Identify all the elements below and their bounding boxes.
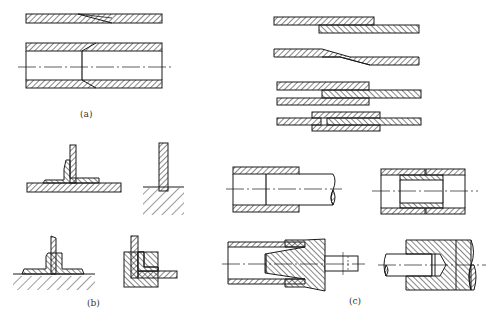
tube-taper-plug-joint	[222, 239, 365, 291]
scarf-joint-tube	[18, 43, 174, 88]
t-joint-double-doubler	[13, 236, 95, 290]
double-lap-joint	[277, 82, 421, 105]
scarf-joint-plate	[26, 14, 162, 23]
label-c: (c)	[349, 296, 361, 306]
lap-joint-simple	[274, 17, 419, 33]
double-strap-butt-joint	[277, 112, 421, 131]
label-b: (b)	[87, 298, 100, 308]
label-a: (a)	[80, 109, 92, 119]
lap-joint-joggled	[274, 49, 419, 65]
t-joint-embedded	[143, 143, 184, 215]
rod-socket-joint	[378, 240, 486, 290]
tube-inner-sleeve-joint	[372, 169, 478, 214]
joint-diagram: (a)	[0, 0, 488, 323]
corner-joint-angle	[124, 236, 177, 287]
tube-sleeve-joint	[226, 167, 342, 212]
t-joint-single-doubler	[27, 145, 121, 192]
